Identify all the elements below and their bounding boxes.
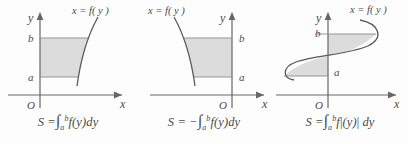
origin-label: O xyxy=(219,99,227,111)
caption-absolute: S =∫abf|(y)| dy xyxy=(272,112,408,132)
math-figure-area-by-y-integration: y x O b a x = f( y ) S =∫abf(y)dy y xyxy=(0,0,408,144)
differential: dy xyxy=(86,115,98,129)
caption-lhs: S = xyxy=(305,115,323,129)
tick-label-a: a xyxy=(334,66,340,78)
caption-lhs: S = xyxy=(168,115,186,129)
origin-label: O xyxy=(27,99,35,111)
panel-absolute-plot: y x O b a x = f( y ) xyxy=(272,0,408,112)
panel-negative-plot: y x O b a x = f( y ) xyxy=(136,0,272,112)
y-axis-label: y xyxy=(27,11,34,25)
x-axis-label: x xyxy=(393,97,400,111)
abs-inner: (y) xyxy=(342,115,356,129)
differential: dy xyxy=(228,115,240,129)
y-axis-arrow-icon xyxy=(37,12,44,20)
integrand: f(y) xyxy=(69,115,87,129)
curve-label: x = f( y ) xyxy=(349,4,387,16)
y-axis-arrow-icon xyxy=(325,12,332,20)
origin-label: O xyxy=(315,99,323,111)
tick-label-a: a xyxy=(239,71,245,83)
y-axis-label: y xyxy=(315,11,322,25)
differential: dy xyxy=(363,115,375,129)
integral-lower-limit: a xyxy=(202,123,206,132)
caption-positive: S =∫abf(y)dy xyxy=(0,112,136,132)
caption-lhs: S = xyxy=(38,115,56,129)
integral-lower-limit: a xyxy=(328,123,332,132)
integrand: f(y) xyxy=(210,115,228,129)
curve-label: x = f( y ) xyxy=(147,5,185,17)
tick-label-b: b xyxy=(315,27,321,39)
abs-bar-close: | xyxy=(357,115,360,129)
panel-positive: y x O b a x = f( y ) S =∫abf(y)dy xyxy=(0,0,136,144)
curve-label: x = f( y ) xyxy=(71,5,109,17)
x-axis-label: x xyxy=(119,97,126,111)
tick-label-b: b xyxy=(28,32,34,44)
caption-sign: − xyxy=(189,115,198,129)
shaded-region xyxy=(40,38,89,77)
y-axis-label: y xyxy=(219,11,226,25)
panel-negative: y x O b a x = f( y ) S = −∫abf(y)dy xyxy=(136,0,272,144)
y-axis-arrow-icon xyxy=(229,12,236,20)
caption-negative: S = −∫abf(y)dy xyxy=(136,112,272,132)
tick-label-a: a xyxy=(28,71,34,83)
x-axis-label: x xyxy=(261,97,268,111)
panel-absolute: y x O b a x = f( y ) S =∫abf|(y)| dy xyxy=(272,0,408,144)
integral-lower-limit: a xyxy=(60,123,64,132)
panel-positive-plot: y x O b a x = f( y ) xyxy=(0,0,136,112)
tick-label-b: b xyxy=(239,32,245,44)
shaded-region xyxy=(183,38,232,77)
